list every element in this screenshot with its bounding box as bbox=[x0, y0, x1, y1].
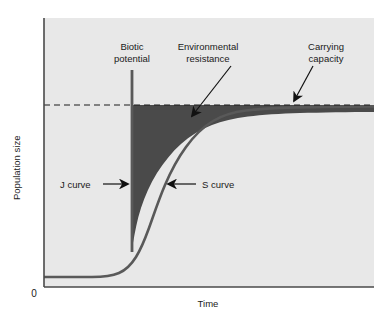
x-axis-label: Time bbox=[198, 298, 219, 309]
origin-label: 0 bbox=[31, 288, 37, 299]
biotic-potential-label-line1: Biotic bbox=[120, 41, 143, 52]
biotic-potential-label-line2: potential bbox=[114, 53, 150, 64]
carrying-capacity-label-line2: capacity bbox=[309, 53, 344, 64]
environmental-resistance-label-line1: Environmental bbox=[178, 41, 239, 52]
j-curve-label: J curve bbox=[60, 179, 91, 190]
environmental-resistance-label-line2: resistance bbox=[186, 53, 229, 64]
chart-canvas: Population size Time 0 Biotic potential … bbox=[0, 0, 381, 317]
y-axis-label: Population size bbox=[11, 136, 22, 200]
population-growth-figure: Population size Time 0 Biotic potential … bbox=[0, 0, 381, 317]
s-curve-label: S curve bbox=[202, 179, 234, 190]
carrying-capacity-label-line1: Carrying bbox=[308, 41, 344, 52]
